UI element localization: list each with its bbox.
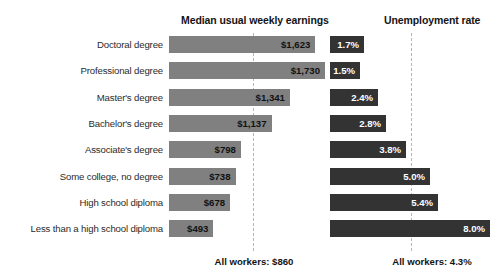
category-label: Some college, no degree [60, 168, 163, 185]
earnings-bar: $1,623 [169, 36, 315, 53]
unemployment-bar: 2.8% [330, 115, 386, 132]
chart-row: Associate's degree$7983.8% [0, 141, 500, 167]
earnings-bar: $493 [169, 220, 213, 237]
earnings-value-label: $738 [209, 168, 230, 185]
chart-row: Some college, no degree$7385.0% [0, 168, 500, 194]
earnings-value-label: $1,341 [256, 89, 285, 106]
earnings-bar: $738 [169, 168, 236, 185]
earnings-value-label: $1,730 [291, 62, 320, 79]
unemployment-bar: 5.0% [330, 168, 430, 185]
unemployment-value-label: 8.0% [463, 220, 485, 237]
unemployment-value-label: 2.8% [359, 115, 381, 132]
earnings-value-label: $678 [204, 194, 225, 211]
column-header-earnings: Median usual weekly earnings [181, 14, 329, 26]
chart-row: Master's degree$1,3412.4% [0, 89, 500, 115]
category-label: High school diploma [79, 194, 163, 211]
unemployment-value-label: 5.0% [403, 168, 425, 185]
chart-row: Bachelor's degree$1,1372.8% [0, 115, 500, 141]
unemployment-value-label: 2.4% [351, 89, 373, 106]
earnings-bar: $678 [169, 194, 230, 211]
education-earnings-unemployment-chart: Median usual weekly earnings Unemploymen… [0, 0, 500, 280]
unemployment-bar: 8.0% [330, 220, 490, 237]
earnings-value-label: $493 [187, 220, 208, 237]
footnote-earnings: All workers: $860 [215, 256, 294, 267]
unemployment-value-label: 1.7% [337, 36, 359, 53]
unemployment-value-label: 5.4% [411, 194, 433, 211]
earnings-bar: $1,137 [169, 115, 272, 132]
category-label: Professional degree [81, 62, 163, 79]
unemployment-bar: 1.5% [330, 62, 360, 79]
earnings-value-label: $1,623 [281, 36, 310, 53]
unemployment-value-label: 3.8% [379, 141, 401, 158]
category-label: Less than a high school diploma [31, 220, 163, 237]
chart-row: High school diploma$6785.4% [0, 194, 500, 220]
earnings-value-label: $1,137 [237, 115, 266, 132]
chart-row: Less than a high school diploma$4938.0% [0, 220, 500, 246]
unemployment-bar: 1.7% [330, 36, 364, 53]
unemployment-bar: 3.8% [330, 141, 406, 158]
earnings-value-label: $798 [215, 141, 236, 158]
chart-row: Doctoral degree$1,6231.7% [0, 36, 500, 62]
unemployment-value-label: 1.5% [333, 62, 355, 79]
earnings-bar: $1,730 [169, 62, 325, 79]
earnings-bar: $1,341 [169, 89, 290, 106]
category-label: Doctoral degree [97, 36, 163, 53]
category-label: Associate's degree [85, 141, 163, 158]
column-header-unemployment: Unemployment rate [384, 14, 480, 26]
unemployment-bar: 5.4% [330, 194, 438, 211]
category-label: Bachelor's degree [89, 115, 163, 132]
unemployment-bar: 2.4% [330, 89, 378, 106]
category-label: Master's degree [97, 89, 163, 106]
earnings-bar: $798 [169, 141, 241, 158]
footnote-unemployment: All workers: 4.3% [392, 256, 471, 267]
chart-row: Professional degree$1,7301.5% [0, 62, 500, 88]
